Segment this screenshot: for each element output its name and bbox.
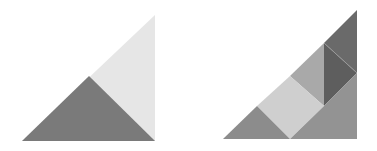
tangram-diagram [0, 0, 377, 151]
left-figure [22, 15, 155, 141]
right-figure [223, 10, 357, 139]
diagram-canvas [0, 0, 377, 151]
